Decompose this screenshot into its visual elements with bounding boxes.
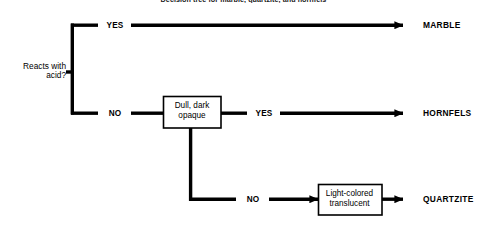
terminal-label-marble: MARBLE: [423, 21, 461, 30]
root-question-label: Reacts with acid?: [2, 62, 66, 81]
chart-title: Decision tree for marble, quartzite, and…: [0, 0, 487, 3]
branch-label-no-dull-dark-opaque: NO: [238, 195, 268, 204]
decision-box-label-dull-dark-opaque: Dull, dark opaque: [163, 101, 221, 120]
branch-label-yes-dull-dark-opaque: YES: [249, 109, 279, 118]
terminal-label-quartzite: QUARTZITE: [423, 195, 474, 204]
terminal-label-hornfels: HORNFELS: [423, 109, 471, 118]
branch-label-yes-reacts-with-acid: YES: [100, 21, 130, 30]
branch-label-no-reacts-with-acid: NO: [100, 109, 130, 118]
decision-box-label-light-colored-translucent: Light-colored translucent: [317, 189, 382, 208]
decision-tree-flowchart: Decision tree for marble, quartzite, and…: [0, 0, 487, 230]
